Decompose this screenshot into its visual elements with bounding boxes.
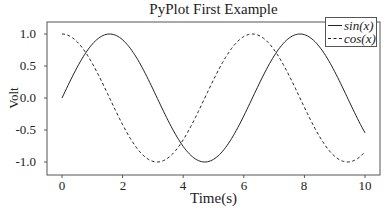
y-tick-label: 1.0 (0, 26, 36, 42)
legend: sin(x) cos(x) (325, 17, 377, 47)
x-tick-label: 8 (292, 178, 316, 194)
x-tick-label: 2 (111, 178, 135, 194)
cos-series-line (62, 34, 365, 162)
y-tick-label: -1.0 (0, 154, 36, 170)
x-tick-label: 0 (50, 178, 74, 194)
y-tick-label: -0.5 (0, 122, 36, 138)
chart-title: PyPlot First Example (47, 1, 380, 18)
y-tick-label: 0.0 (0, 90, 36, 106)
x-tick-label: 10 (353, 178, 377, 194)
solid-line-swatch-icon (328, 25, 342, 26)
x-axis-label: Time(s) (47, 190, 380, 207)
legend-item-cos: cos(x) (328, 32, 376, 45)
axis-ticks (44, 34, 365, 178)
x-tick-label: 4 (171, 178, 195, 194)
legend-label: cos(x) (344, 31, 376, 47)
y-tick-label: 0.5 (0, 58, 36, 74)
x-tick-label: 6 (232, 178, 256, 194)
dashed-line-swatch-icon (328, 38, 342, 39)
sin-series-line (62, 34, 365, 162)
